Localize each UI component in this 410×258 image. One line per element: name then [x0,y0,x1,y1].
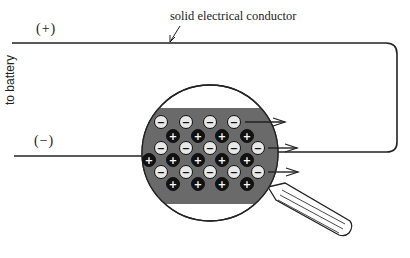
svg-text:+: + [194,179,202,190]
svg-text:+: + [218,155,226,166]
positive-ion-particle: + [241,178,254,191]
positive-ion-particle: + [241,130,254,143]
svg-text:−: − [206,143,214,154]
svg-text:+: + [218,179,226,190]
electron-particle: − [155,116,168,129]
positive-ion-particle: + [167,178,180,191]
svg-text:−: − [230,143,238,154]
label-pointer-line [170,26,180,42]
positive-ion-particle: + [192,130,205,143]
electron-particle: − [155,142,168,155]
svg-text:+: + [243,155,251,166]
electron-particle: − [228,142,241,155]
svg-text:+: + [218,131,226,142]
positive-ion-particle: + [216,154,229,167]
negative-terminal-label: (−) [34,133,54,149]
positive-ion-particle: + [167,154,180,167]
svg-text:−: − [157,167,165,178]
svg-text:+: + [194,155,202,166]
svg-text:−: − [230,117,238,128]
positive-ion-particle: + [143,154,156,167]
svg-text:−: − [206,167,214,178]
svg-text:+: + [194,131,202,142]
electron-particle: − [204,166,217,179]
svg-text:+: + [169,179,177,190]
svg-text:−: − [182,143,190,154]
positive-ion-particle: + [167,130,180,143]
electron-particle: − [180,116,193,129]
svg-text:−: − [182,117,190,128]
svg-text:−: − [254,167,262,178]
electron-particle: − [228,166,241,179]
positive-ion-particle: + [192,178,205,191]
conductor-label: solid electrical conductor [170,9,296,24]
circuit-drawing: −−−−++++−−−−−+++++−−−−−++++ [0,0,410,258]
positive-ion-particle: + [216,178,229,191]
svg-text:−: − [230,167,238,178]
svg-text:+: + [145,155,153,166]
svg-text:−: − [157,143,165,154]
positive-ion-particle: + [192,154,205,167]
electron-particle: − [204,142,217,155]
svg-text:−: − [206,117,214,128]
positive-terminal-label: (+) [36,21,56,37]
electron-particle: − [252,166,265,179]
svg-text:−: − [254,143,262,154]
svg-text:+: + [243,131,251,142]
svg-text:+: + [169,131,177,142]
svg-text:−: − [157,117,165,128]
svg-text:+: + [169,155,177,166]
electron-particle: − [252,142,265,155]
electron-particle: − [180,142,193,155]
svg-text:−: − [182,167,190,178]
magnifier-handle [268,183,352,236]
electron-particle: − [228,116,241,129]
electron-particle: − [204,116,217,129]
positive-ion-particle: + [241,154,254,167]
positive-ion-particle: + [216,130,229,143]
diagram-canvas: −−−−++++−−−−−+++++−−−−−++++ solid electr… [0,0,410,258]
svg-text:+: + [243,179,251,190]
electron-particle: − [180,166,193,179]
to-battery-label: to battery [3,55,17,105]
electron-particle: − [155,166,168,179]
